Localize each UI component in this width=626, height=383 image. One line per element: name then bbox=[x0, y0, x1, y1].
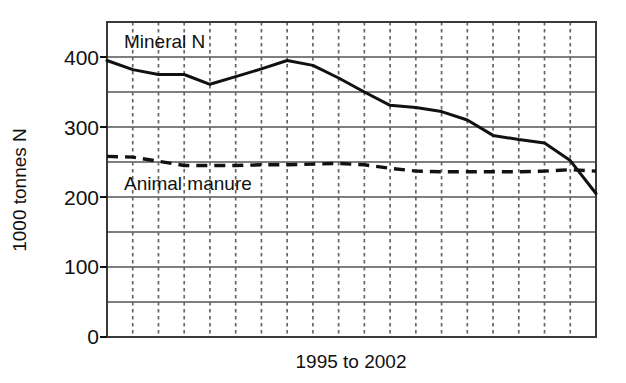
y-tick-label-400: 400 bbox=[64, 46, 99, 69]
y-tick-label-200: 200 bbox=[64, 186, 99, 209]
y-tick-label-300: 300 bbox=[64, 116, 99, 139]
series-label-animal-manure: Animal manure bbox=[124, 173, 252, 194]
y-axis-title: 1000 tonnes N bbox=[9, 128, 30, 252]
x-axis-title: 1995 to 2002 bbox=[296, 351, 407, 372]
chart-page: 400 300 200 100 0 1000 tonnes N 1995 to … bbox=[0, 0, 626, 383]
series-label-mineral-n: Mineral N bbox=[124, 31, 205, 52]
y-tick-label-100: 100 bbox=[64, 255, 99, 278]
y-tick-label-0: 0 bbox=[87, 325, 99, 348]
line-chart: 400 300 200 100 0 1000 tonnes N 1995 to … bbox=[0, 0, 626, 383]
